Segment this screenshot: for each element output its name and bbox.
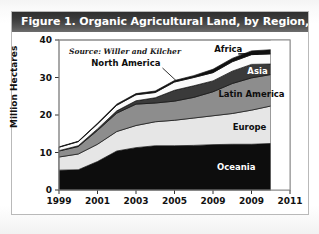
x-tick-label: 1999 [46, 196, 71, 206]
y-tick-label: 10 [39, 148, 52, 158]
series-label-latin-america: Latin America [218, 89, 284, 99]
source-note: Source: Willer and Kilcher [69, 47, 182, 56]
x-tick-label: 2005 [162, 196, 187, 206]
y-tick-label: 0 [46, 185, 52, 195]
y-tick-label: 20 [39, 110, 52, 120]
series-label-oceania: Oceania [217, 162, 256, 172]
y-tick-label: 40 [39, 35, 52, 45]
series-label-north-america: North America [91, 58, 161, 68]
stacked-area-chart: 0102030401999200120032005200920092011 Af… [12, 32, 308, 214]
figure-root: Figure 1. Organic Agricultural Land, by … [0, 0, 319, 234]
figure-title: Figure 1. Organic Agricultural Land, by … [21, 15, 308, 28]
x-tick-label: 2011 [277, 196, 302, 206]
figure-container: Figure 1. Organic Agricultural Land, by … [12, 12, 308, 214]
series-label-europe: Europe [233, 122, 267, 132]
y-axis-title: Million Hectares [9, 46, 19, 128]
chart-area: Million Hectares 01020304019992001200320… [12, 32, 308, 214]
x-tick-label: 2001 [85, 196, 110, 206]
figure-title-bar: Figure 1. Organic Agricultural Land, by … [12, 12, 308, 32]
series-label-africa: Africa [214, 44, 242, 54]
y-tick-label: 30 [39, 73, 52, 83]
x-tick-label: 2009 [200, 196, 225, 206]
x-tick-label: 2003 [123, 196, 148, 206]
series-label-asia: Asia [247, 66, 268, 76]
x-tick-label: 2009 [239, 196, 264, 206]
plot-right-gap [271, 40, 290, 190]
